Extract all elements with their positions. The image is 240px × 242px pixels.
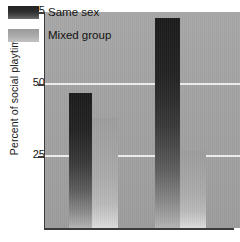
bar-group1-mixed-group <box>92 118 118 228</box>
bar-group2-same-sex <box>155 18 180 228</box>
gridline-50 <box>45 83 240 85</box>
legend-item-same-sex: Same sex <box>8 3 111 21</box>
bar-group1-same-sex <box>69 93 92 228</box>
x-axis-line <box>44 228 234 230</box>
legend-item-mixed-group: Mixed group <box>8 26 111 44</box>
bar-group2-mixed-group <box>180 151 206 228</box>
bar-chart-figure: Percent of social playtime 75 50 25 Same… <box>0 0 240 242</box>
light-swatch-icon <box>8 29 39 42</box>
legend-label-same-sex: Same sex <box>48 6 99 18</box>
dark-swatch-icon <box>8 6 39 19</box>
legend-label-mixed-group: Mixed group <box>48 29 111 41</box>
chart-legend: Same sex Mixed group <box>8 3 111 49</box>
